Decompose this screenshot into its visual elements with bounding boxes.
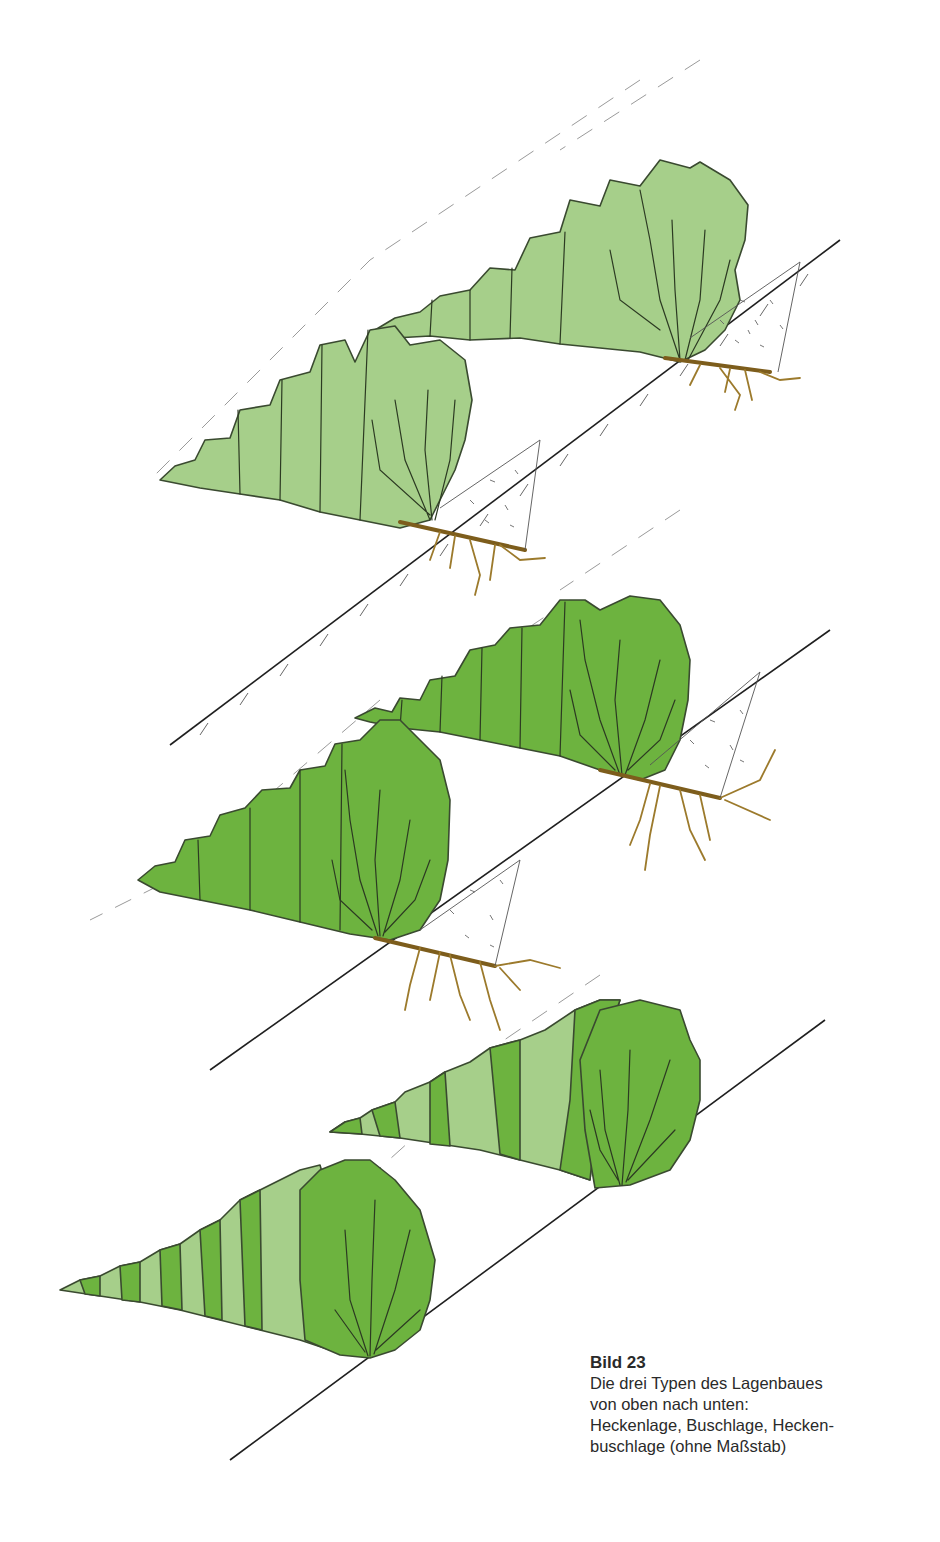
figure-caption: Bild 23 Die drei Typen des Lagenbaues vo… <box>590 1352 930 1457</box>
figure-label: Bild 23 <box>590 1352 930 1373</box>
illustration-figure <box>0 0 940 1542</box>
caption-line-3: Heckenlage, Buschlage, Hecken- <box>590 1415 930 1436</box>
caption-line-1: Die drei Typen des Lagenbaues <box>590 1373 930 1394</box>
caption-line-4: buschlage (ohne Maßstab) <box>590 1436 930 1457</box>
caption-line-2: von oben nach unten: <box>590 1394 930 1415</box>
